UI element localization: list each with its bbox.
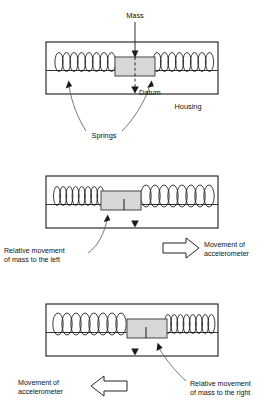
relative-leader-2 — [88, 220, 107, 253]
movement-arrow-right-icon — [163, 238, 199, 258]
accelerometer-diagram: Mass Datum Springs Housing — [0, 0, 270, 416]
springs-arrowhead-right-icon — [147, 81, 154, 88]
spring-left-1 — [55, 53, 116, 72]
label-mass: Mass — [126, 11, 144, 20]
spring-right-2 — [141, 185, 214, 207]
label-relative-left-1: Relative movement — [4, 247, 65, 255]
datum-marker-icon-2 — [131, 220, 139, 227]
label-relative-right-2: of mass to the right — [190, 389, 250, 397]
label-movement-3a: Movement of — [18, 379, 59, 387]
datum-marker-icon-3 — [131, 348, 139, 355]
spring-right-1 — [153, 53, 214, 72]
label-datum: Datum — [139, 88, 161, 97]
spring-left-3 — [53, 313, 126, 335]
datum-marker-icon-1 — [131, 86, 139, 93]
relative-arrowhead-icon-3 — [157, 343, 163, 351]
label-relative-left-2: of mass to the left — [4, 256, 60, 264]
label-movement-2b: accelerometer — [204, 250, 250, 258]
panel-rest: Mass Datum Springs Housing — [46, 11, 218, 140]
panel-accelerating-right: Relative movement of mass to the left Mo… — [4, 176, 250, 264]
panel-accelerating-left: Relative movement of mass to the right M… — [18, 304, 251, 397]
relative-arrowhead-icon-2 — [104, 215, 111, 222]
label-movement-3b: accelerometer — [18, 388, 64, 396]
label-springs: Springs — [91, 131, 116, 140]
label-housing: Housing — [174, 102, 201, 111]
springs-leader-left — [69, 86, 86, 131]
label-movement-2a: Movement of — [204, 241, 245, 249]
mass-block-3 — [127, 319, 167, 338]
relative-leader-3 — [159, 348, 186, 381]
mass-block-2 — [101, 191, 141, 210]
label-relative-right-1: Relative movement — [190, 380, 251, 388]
spring-right-3 — [165, 315, 215, 334]
movement-arrow-left-icon — [91, 376, 127, 396]
spring-left-2 — [54, 187, 104, 206]
springs-arrowhead-left-icon — [66, 81, 73, 89]
